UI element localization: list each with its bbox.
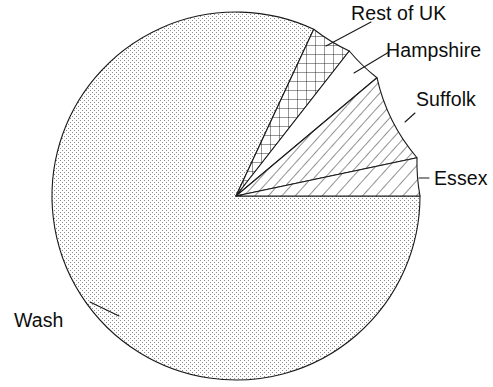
- pie-chart-figure: Rest of UK Hampshire Suffolk Essex Wash: [0, 0, 493, 387]
- slice-label-rest-of-uk: Rest of UK: [351, 2, 446, 24]
- leader-line-rest-of-uk: [326, 22, 371, 46]
- slice-label-wash: Wash: [14, 309, 64, 331]
- slice-label-hampshire: Hampshire: [386, 39, 481, 61]
- slice-label-suffolk: Suffolk: [416, 88, 476, 110]
- slice-label-essex: Essex: [434, 167, 488, 189]
- pie-chart-svg: Rest of UK Hampshire Suffolk Essex Wash: [0, 0, 493, 387]
- leader-line-suffolk: [405, 113, 415, 122]
